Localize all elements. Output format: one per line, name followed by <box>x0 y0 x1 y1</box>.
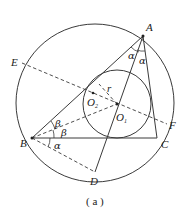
angle-label-alpha-a1: α <box>128 50 135 61</box>
dashed-line-bo1 <box>32 104 117 138</box>
geometry-diagram: A B C D E F O2 O1 r α α β β α ( a ) <box>0 0 190 220</box>
label-b: B <box>20 137 27 149</box>
label-a: A <box>145 21 153 33</box>
angle-arc-b-beta2 <box>53 130 54 138</box>
label-r: r <box>107 82 112 94</box>
label-f: F <box>168 119 176 131</box>
label-d: D <box>89 175 98 187</box>
angle-arc-b-alpha <box>48 138 50 147</box>
dashed-line-ef <box>22 63 167 124</box>
point-o1-dot <box>116 103 119 106</box>
label-o1: O1 <box>116 111 127 124</box>
label-o2: O2 <box>87 96 98 109</box>
label-c: C <box>161 138 169 150</box>
label-e: E <box>10 56 18 68</box>
angle-label-beta-b1: β <box>54 118 61 129</box>
dashed-line-bd <box>32 138 95 172</box>
point-o2-dot <box>92 92 95 95</box>
angle-label-beta-b2: β <box>60 127 67 138</box>
figure-caption: ( a ) <box>86 195 104 208</box>
angle-label-alpha-a2: α <box>139 55 146 66</box>
point-b-dot <box>31 137 34 140</box>
point-a-dot <box>142 35 145 38</box>
angle-label-alpha-b: α <box>54 140 61 151</box>
